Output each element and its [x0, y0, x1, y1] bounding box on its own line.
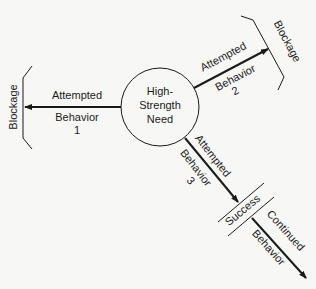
- need-behavior-diagram: High- Strength Need Attempted Behavior 1…: [0, 0, 316, 289]
- center-node-line2: Strength: [139, 99, 181, 111]
- behavior-3-number: 3: [185, 174, 198, 186]
- blockage-1-label: Blockage: [7, 84, 19, 129]
- center-node-line3: Need: [147, 113, 173, 125]
- blockage-2-label: Blockage: [272, 18, 304, 64]
- behavior-3-path: Attempted Behavior 3 Success Continued B…: [178, 132, 307, 278]
- behavior-2-number: 2: [230, 84, 241, 97]
- behavior-1-label-bottom: Behavior: [55, 111, 99, 123]
- center-node-line1: High-: [147, 85, 174, 97]
- behavior-1-path: Attempted Behavior 1 Blockage: [7, 66, 121, 149]
- high-strength-need-node: High- Strength Need: [121, 68, 199, 146]
- behavior-1-number: 1: [74, 124, 80, 136]
- behavior-2-path: Attempted Behavior 2 Blockage: [194, 16, 303, 97]
- behavior-1-label-top: Attempted: [52, 89, 102, 101]
